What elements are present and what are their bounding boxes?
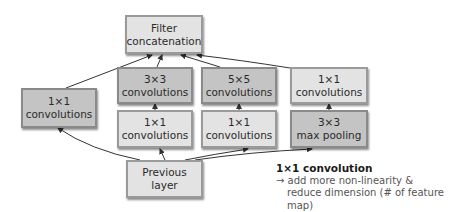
node-conv5x5: 5×5 convolutions [201,67,277,104]
node-label: convolutions [206,129,273,142]
node-conv1x1-pool-projection: 1×1 convolutions [290,67,368,104]
node-label: Filter [151,22,177,35]
node-conv3x3: 3×3 convolutions [117,67,193,104]
node-label: 1×1 [318,73,340,86]
node-conv1x1-reduce-3x3: 1×1 convolutions [117,110,193,148]
node-label: 1×1 [144,116,166,129]
node-label: convolutions [206,86,273,99]
node-conv1x1-reduce-5x5: 1×1 convolutions [201,110,277,148]
edge-conv3x3-to-concat [157,55,162,67]
annotation-line2: reduce dimension (# of feature map) [276,187,463,212]
node-label: convolutions [26,108,93,121]
arrow-right-icon: → [276,175,284,186]
node-previous-layer: Previous layer [126,160,203,198]
node-label: 3×3 [318,116,340,129]
node-maxpool3x3: 3×3 max pooling [290,110,368,148]
node-label: 3×3 [144,73,166,86]
node-label: 5×5 [228,73,250,86]
annotation-text-1: add more non-linearity & [288,175,413,186]
annotation: 1×1 convolution → add more non-linearity… [276,162,463,212]
node-label: convolutions [296,86,363,99]
node-conv1x1-left: 1×1 convolutions [21,88,97,128]
annotation-title: 1×1 convolution [276,162,463,175]
node-label: max pooling [297,129,362,142]
node-filter-concatenation: Filter concatenation [125,15,203,54]
node-label: convolutions [122,86,189,99]
node-label: Previous layer [128,166,201,192]
node-label: 1×1 [228,116,250,129]
node-label: concatenation [127,35,202,48]
node-label: convolutions [122,129,189,142]
edge-prev-to-conv1x1-reduce3 [160,149,165,160]
annotation-line1: → add more non-linearity & [276,175,463,188]
node-label: 1×1 [48,95,70,108]
